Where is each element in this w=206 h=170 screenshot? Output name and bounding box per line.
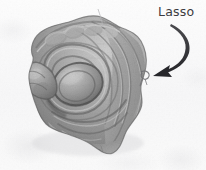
mesh-render-container [0,0,206,170]
lasso-label: Lasso [158,6,194,19]
grayscale-3d-mesh [0,0,206,170]
figure-canvas: Lasso [0,0,206,170]
